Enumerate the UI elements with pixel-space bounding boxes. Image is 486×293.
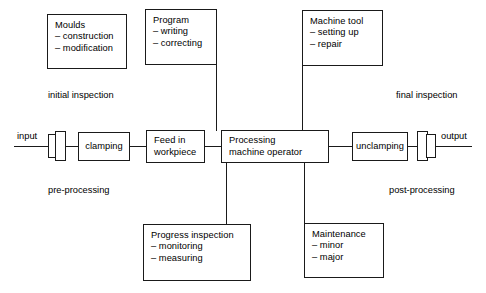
label-final-inspection: final inspection: [396, 90, 458, 101]
link-processing-to-progress-inspection: [226, 161, 227, 224]
flow-line-feed-to-processing: [205, 146, 221, 147]
label-input: input: [17, 131, 37, 142]
link-program-to-processing: [216, 64, 217, 131]
box-progress-inspection[interactable]: Progress inspection – monitoring – measu…: [143, 224, 251, 281]
label-post-processing: post-processing: [389, 185, 455, 196]
box-processing-machine-operator[interactable]: Processing machine operator: [221, 130, 329, 163]
output-connector-plug: [426, 134, 436, 158]
input-connector-symbol: [48, 131, 68, 161]
input-connector-pin: [55, 131, 66, 161]
box-unclamping-text: unclamping: [356, 141, 404, 152]
box-moulds-text: Moulds – construction – modification: [48, 15, 126, 54]
flow-line-output: [434, 146, 472, 147]
box-machine-tool[interactable]: Machine tool – setting up – repair: [302, 10, 383, 66]
flow-line-clamping-to-feed: [130, 146, 146, 147]
label-initial-inspection: initial inspection: [48, 90, 114, 101]
flow-line-input: [14, 146, 50, 147]
flow-line-processing-to-unclamping: [329, 146, 352, 147]
link-machinetool-to-processing: [302, 65, 303, 131]
box-feed-in-workpiece-text: Feed in workpiece: [147, 135, 196, 158]
box-maintenance[interactable]: Maintenance – minor – major: [304, 223, 384, 278]
box-moulds[interactable]: Moulds – construction – modification: [47, 14, 127, 69]
box-feed-in-workpiece[interactable]: Feed in workpiece: [146, 130, 205, 163]
link-processing-to-maintenance: [304, 161, 305, 223]
box-program[interactable]: Program – writing – correcting: [145, 9, 217, 65]
box-maintenance-text: Maintenance – minor – major: [305, 224, 383, 263]
box-program-text: Program – writing – correcting: [146, 10, 216, 49]
label-output: output: [441, 131, 467, 142]
box-machine-tool-text: Machine tool – setting up – repair: [303, 11, 382, 50]
process-flow-diagram: Moulds – construction – modification Pro…: [0, 0, 486, 293]
box-clamping-text: clamping: [85, 141, 123, 152]
box-processing-machine-operator-text: Processing machine operator: [222, 135, 302, 158]
label-pre-processing: pre-processing: [48, 185, 110, 196]
box-clamping[interactable]: clamping: [78, 132, 130, 161]
box-unclamping[interactable]: unclamping: [352, 132, 408, 161]
box-progress-inspection-text: Progress inspection – monitoring – measu…: [144, 225, 250, 264]
output-connector-symbol: [417, 131, 437, 161]
